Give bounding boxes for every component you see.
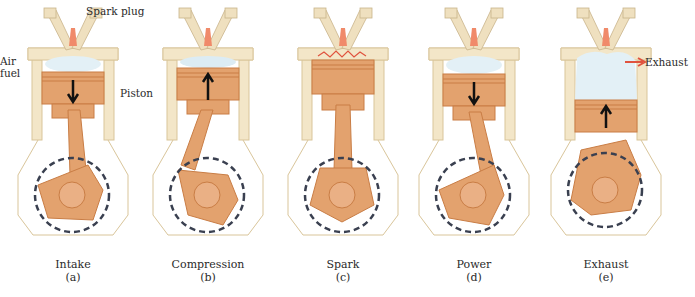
engine-exhaust-illustration bbox=[541, 0, 671, 240]
caption-exhaust: Exhaust (e) bbox=[541, 258, 671, 284]
gas-cloud bbox=[575, 52, 637, 100]
stage-exhaust: Exhaust bbox=[541, 0, 671, 240]
gas-cloud bbox=[45, 56, 101, 72]
engine-spark-illustration bbox=[278, 0, 408, 240]
spark-plug-icon bbox=[339, 28, 347, 46]
engine-power-illustration bbox=[409, 0, 539, 240]
caption-spark: Spark (c) bbox=[278, 258, 408, 284]
label-air-fuel: Air fuel bbox=[0, 55, 20, 79]
engine-compression-illustration bbox=[143, 0, 273, 240]
spark-plug-icon bbox=[470, 28, 478, 46]
stage-intake: Air fuel Spark plug Piston bbox=[8, 0, 138, 240]
label-exhaust: Exhaust bbox=[645, 56, 688, 68]
gas-cloud bbox=[180, 56, 236, 68]
caption-intake: Intake (a) bbox=[8, 258, 138, 284]
engine-intake-illustration bbox=[8, 0, 138, 240]
gas-cloud bbox=[446, 56, 502, 74]
spark-plug-icon bbox=[69, 28, 77, 46]
stage-compression bbox=[143, 0, 273, 240]
caption-compression: Compression (b) bbox=[143, 258, 273, 284]
caption-power: Power (d) bbox=[409, 258, 539, 284]
stage-power bbox=[409, 0, 539, 240]
spark-plug-icon bbox=[204, 28, 212, 46]
piston-icon bbox=[312, 60, 374, 110]
stage-spark bbox=[278, 0, 408, 240]
connecting-rod bbox=[68, 110, 86, 175]
label-spark-plug: Spark plug bbox=[86, 5, 144, 17]
spark-plug-icon bbox=[602, 28, 610, 46]
